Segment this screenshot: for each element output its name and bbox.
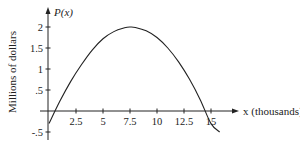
x-axis-arrow-icon: [232, 109, 239, 114]
x-tick-label: 7.5: [123, 116, 136, 127]
x-tick-label: 2.5: [69, 116, 82, 127]
y-tick-label: -.5: [32, 127, 43, 138]
y-tick-label: 1.5: [30, 43, 43, 54]
x-tick-label: 10: [152, 116, 163, 127]
y-tick-label: 1: [38, 64, 43, 75]
profit-chart: 2.557.51012.515 -.5.511.52 P(x) x (thous…: [0, 0, 300, 156]
x-axis-name: x (thousands): [243, 105, 300, 118]
y-axis-arrow-icon: [46, 7, 51, 14]
x-tick-label: 12.5: [175, 116, 193, 127]
y-axis-name: P(x): [53, 6, 73, 19]
y-tick-label: .5: [35, 85, 43, 96]
y-tick-label: 2: [38, 22, 43, 33]
y-axis-title: Millions of dollars: [6, 31, 18, 113]
x-tick-label: 15: [206, 116, 217, 127]
y-ticks: -.5.511.52: [30, 22, 51, 138]
x-tick-label: 5: [100, 116, 105, 127]
